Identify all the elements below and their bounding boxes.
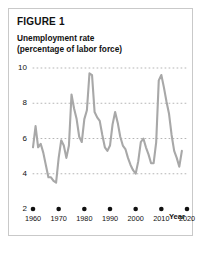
x-axis-tick-1970: 1970 (46, 214, 72, 223)
x-axis-title: Year (169, 212, 185, 221)
chart-x-axis-markers (31, 207, 190, 212)
y-axis-tick-6: 6 (13, 134, 27, 143)
x-axis-tick-2000: 2000 (123, 214, 149, 223)
x-axis-tick-1990: 1990 (97, 214, 123, 223)
chart-plot-area: 246810 1960197019801990200020102020 (9, 9, 194, 237)
figure-card: FIGURE 1 Unemployment rate (percentage o… (8, 8, 193, 236)
x-axis-tick-1980: 1980 (71, 214, 97, 223)
y-axis-tick-8: 8 (13, 98, 27, 107)
unemployment-line-chart (9, 9, 194, 237)
y-axis-tick-10: 10 (13, 63, 27, 72)
chart-data-line (33, 73, 182, 182)
y-axis-tick-2: 2 (13, 204, 27, 213)
y-axis-tick-4: 4 (13, 169, 27, 178)
x-axis-tick-1960: 1960 (20, 214, 46, 223)
